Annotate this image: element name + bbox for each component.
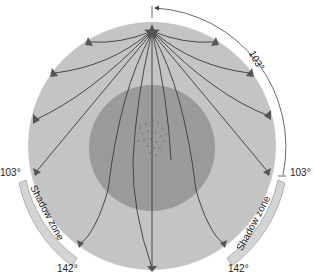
seismic-diagram: 103° 103° 103° 142° 142° Shadow zone Sha… [0, 0, 314, 275]
left-103-label: 103° [0, 167, 21, 178]
left-142-label: 142° [57, 263, 78, 274]
arc-arrow-icon [154, 6, 159, 11]
top-angle-label: 103° [247, 49, 267, 72]
right-103-label: 103° [290, 167, 311, 178]
right-142-label: 142° [228, 263, 249, 274]
